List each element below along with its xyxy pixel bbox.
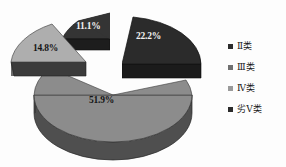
pie-data-label-22-2: 22.2% <box>136 32 161 42</box>
pie-slice-51-9 <box>34 68 192 160</box>
legend-item-label: Ⅳ类 <box>237 84 256 93</box>
legend-item-label: Ⅱ类 <box>237 42 253 51</box>
pie-chart: 22.2% 51.9% 14.8% 11.1% Ⅱ类 Ⅲ类 Ⅳ类 劣Ⅴ类 <box>0 0 286 167</box>
legend-item-class-3[interactable]: Ⅲ类 <box>228 57 286 78</box>
legend-swatch-icon <box>228 107 233 112</box>
pie-data-label-11-1: 11.1% <box>76 22 101 32</box>
pie-graphic <box>0 0 222 167</box>
pie-plot-area: 22.2% 51.9% 14.8% 11.1% <box>0 0 222 167</box>
legend-swatch-icon <box>228 65 233 70</box>
pie-data-label-51-9: 51.9% <box>89 96 114 106</box>
legend-item-class-inferior-5[interactable]: 劣Ⅴ类 <box>228 99 286 120</box>
legend-swatch-icon <box>228 44 233 49</box>
legend-swatch-icon <box>228 86 233 91</box>
pie-slice-22-2 <box>122 17 201 78</box>
legend-item-class-4[interactable]: Ⅳ类 <box>228 78 286 99</box>
legend-item-label: 劣Ⅴ类 <box>237 105 262 114</box>
pie-data-label-14-8: 14.8% <box>33 44 58 54</box>
legend-item-label: Ⅲ类 <box>237 63 255 72</box>
legend-item-class-2[interactable]: Ⅱ类 <box>228 36 286 57</box>
chart-legend: Ⅱ类 Ⅲ类 Ⅳ类 劣Ⅴ类 <box>228 36 286 120</box>
